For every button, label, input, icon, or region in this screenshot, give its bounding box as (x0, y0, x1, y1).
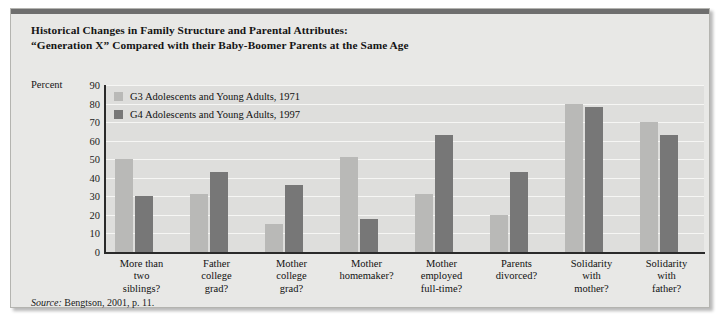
bar-group (404, 85, 479, 252)
x-axis-label: Mothercollegegrad? (254, 258, 329, 295)
source-note: Source: Bengtson, 2001, p. 11. (31, 297, 154, 308)
bar[interactable] (415, 194, 433, 252)
y-axis-tick: 50 (90, 154, 101, 165)
top-accent-band (11, 9, 709, 14)
legend-item[interactable]: G3 Adolescents and Young Adults, 1971 (114, 89, 300, 104)
bar[interactable] (510, 172, 528, 252)
y-axis-tick: 10 (90, 228, 101, 239)
legend-item[interactable]: G4 Adolescents and Young Adults, 1997 (114, 107, 300, 122)
bar-group (479, 85, 554, 252)
y-axis-tick: 20 (90, 209, 101, 220)
x-axis-label-line: Mother (329, 258, 404, 270)
x-axis-label-line: father? (629, 283, 704, 295)
legend-label: G4 Adolescents and Young Adults, 1997 (130, 109, 300, 120)
legend-swatch-icon (114, 92, 123, 101)
x-axis-label-line: Mother (404, 258, 479, 270)
x-axis-label-line: employed (404, 270, 479, 282)
bar[interactable] (340, 157, 358, 252)
chart-legend: G3 Adolescents and Young Adults, 1971G4 … (114, 89, 300, 125)
x-axis-label-line: grad? (254, 283, 329, 295)
y-axis-tick: 70 (90, 117, 101, 128)
bar[interactable] (640, 122, 658, 252)
x-axis-label-line: More than (104, 258, 179, 270)
x-axis-label-line: divorced? (479, 270, 554, 282)
y-axis-tick: 60 (90, 135, 101, 146)
x-axis-label: Solidaritywithmother? (554, 258, 629, 295)
x-axis-label: Fathercollegegrad? (179, 258, 254, 295)
x-axis-label: More thantwosiblings? (104, 258, 179, 295)
y-axis-tick: 90 (90, 80, 101, 91)
bar[interactable] (135, 196, 153, 252)
y-axis-tick: 40 (90, 172, 101, 183)
source-prefix: Source: (31, 297, 62, 308)
figure-card: Historical Changes in Family Structure a… (10, 8, 710, 308)
x-axis-label-line: grad? (179, 283, 254, 295)
y-axis-tick: 0 (95, 247, 100, 258)
x-axis-label-line: Father (179, 258, 254, 270)
bar-group (329, 85, 404, 252)
bar[interactable] (660, 135, 678, 252)
legend-swatch-icon (114, 110, 123, 119)
chart-title: Historical Changes in Family Structure a… (31, 23, 681, 52)
x-axis-line (104, 252, 705, 254)
x-axis-label-line: full-time? (404, 283, 479, 295)
x-axis-label-line: Solidarity (629, 258, 704, 270)
bar[interactable] (565, 104, 583, 252)
y-axis-line (104, 85, 106, 253)
x-axis-label-line: college (179, 270, 254, 282)
x-axis-label-line: siblings? (104, 283, 179, 295)
bar[interactable] (265, 224, 283, 252)
bar[interactable] (490, 215, 508, 252)
bar[interactable] (360, 219, 378, 252)
bar[interactable] (190, 194, 208, 252)
bar[interactable] (210, 172, 228, 252)
bar-group (629, 85, 704, 252)
x-axis-label-line: Mother (254, 258, 329, 270)
bar-group (554, 85, 629, 252)
x-axis-label-line: with (629, 270, 704, 282)
x-axis-label-line: with (554, 270, 629, 282)
y-axis-tick: 30 (90, 191, 101, 202)
bar[interactable] (285, 185, 303, 252)
source-text: Bengtson, 2001, p. 11. (64, 297, 154, 308)
x-axis-label: Parentsdivorced? (479, 258, 554, 283)
x-axis-label-line: mother? (554, 283, 629, 295)
y-axis-tick: 80 (90, 98, 101, 109)
chart-title-line-2: “Generation X” Compared with their Baby-… (31, 38, 681, 53)
x-axis-label: Motherhomemaker? (329, 258, 404, 283)
x-axis-label: Motheremployedfull-time? (404, 258, 479, 295)
y-axis-label: Percent (31, 79, 63, 90)
x-axis-label-line: college (254, 270, 329, 282)
bar[interactable] (435, 135, 453, 252)
x-axis-label-line: homemaker? (329, 270, 404, 282)
x-axis-label-line: Parents (479, 258, 554, 270)
legend-label: G3 Adolescents and Young Adults, 1971 (130, 91, 300, 102)
x-axis-label: Solidaritywithfather? (629, 258, 704, 295)
x-axis-label-line: Solidarity (554, 258, 629, 270)
chart-title-line-1: Historical Changes in Family Structure a… (31, 23, 681, 38)
x-axis-label-line: two (104, 270, 179, 282)
bar[interactable] (585, 107, 603, 252)
bar[interactable] (115, 159, 133, 252)
